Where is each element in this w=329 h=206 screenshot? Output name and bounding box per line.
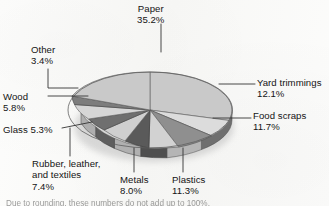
figure-pie-chart-msw-composition: Paper 35.2% Yard trimmings 12.1% Food sc… (0, 0, 329, 206)
label-glass-value: 5.3% (31, 124, 53, 135)
leader-line-other (48, 69, 78, 88)
label-paper-value: 35.2% (137, 14, 164, 25)
label-rubber-leather-textiles-name-line1: Rubber, leather, (32, 158, 101, 169)
label-wood-name: Wood (3, 91, 28, 102)
label-rubber-leather-textiles: Rubber, leather, and textiles 7.4% (32, 158, 101, 192)
label-rubber-leather-textiles-name-line2: and textiles (32, 169, 101, 180)
label-plastics-value: 11.3% (172, 185, 205, 196)
label-paper-name: Paper (138, 3, 164, 14)
label-glass: Glass 5.3% (3, 124, 53, 135)
label-wood-value: 5.8% (3, 102, 28, 113)
label-glass-name: Glass (3, 124, 28, 135)
label-plastics-name: Plastics (172, 174, 205, 185)
label-other-name: Other (31, 44, 55, 55)
label-food-scraps-name: Food scraps (253, 110, 306, 121)
label-yard-trimmings-name: Yard trimmings (257, 77, 322, 88)
label-yard-trimmings: Yard trimmings 12.1% (257, 77, 322, 100)
label-other-value: 3.4% (31, 55, 55, 66)
label-plastics: Plastics 11.3% (172, 174, 205, 197)
label-food-scraps-value: 11.7% (253, 121, 306, 132)
label-metals: Metals 8.0% (120, 174, 149, 197)
label-other: Other 3.4% (31, 44, 55, 67)
label-food-scraps: Food scraps 11.7% (253, 110, 306, 133)
figure-footnote: Due to rounding, these numbers do not ad… (6, 199, 210, 206)
label-metals-value: 8.0% (120, 185, 149, 196)
label-paper: Paper 35.2% (137, 3, 164, 26)
label-metals-name: Metals (120, 174, 149, 185)
label-wood: Wood 5.8% (3, 91, 28, 114)
label-yard-trimmings-value: 12.1% (257, 88, 322, 99)
label-rubber-leather-textiles-value: 7.4% (32, 181, 101, 192)
